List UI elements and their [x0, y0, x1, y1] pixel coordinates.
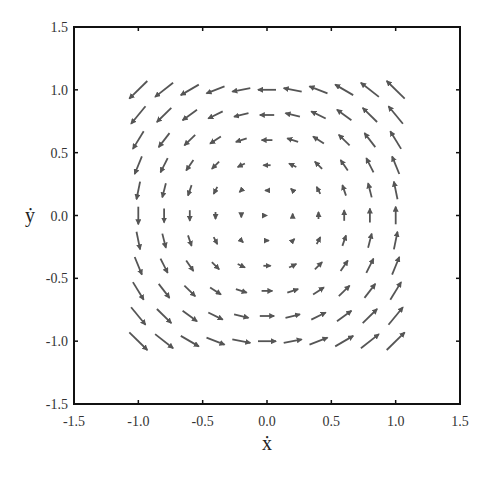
field-arrow [342, 235, 346, 246]
field-arrow [365, 284, 376, 298]
field-arrow [159, 284, 170, 298]
field-arrow [240, 239, 244, 243]
field-arrow [284, 339, 302, 343]
field-arrow [212, 162, 219, 169]
field-arrow [286, 113, 300, 117]
quiver-plot: -1.5-1.0-0.50.00.51.01.5 1.51.00.50.0-0.… [0, 0, 497, 482]
field-arrow [183, 110, 197, 121]
field-arrow [184, 135, 195, 146]
vector-field-arrows [129, 81, 404, 350]
field-arrow [135, 156, 142, 174]
field-arrow [208, 313, 222, 320]
y-axis-ticks: 1.51.00.50.0-0.5-1.0-1.5 [46, 20, 460, 412]
field-arrow [313, 287, 324, 294]
field-arrow [390, 131, 401, 149]
field-arrow [287, 289, 298, 293]
field-arrow [137, 182, 141, 200]
field-arrow [159, 133, 170, 147]
y-tick-label: 1.0 [51, 83, 69, 98]
field-arrow [234, 314, 248, 318]
field-arrow [232, 339, 250, 343]
field-arrow [162, 234, 166, 248]
field-arrow [394, 232, 398, 250]
x-tick-label: -0.5 [192, 414, 214, 429]
field-arrow [368, 183, 372, 197]
y-tick-label: 0.5 [51, 146, 69, 161]
field-arrow [339, 286, 350, 297]
field-arrow [361, 83, 379, 97]
field-arrow [337, 311, 351, 322]
field-arrow [184, 286, 195, 297]
field-arrow [207, 86, 225, 93]
field-arrow [133, 131, 144, 149]
field-arrow [238, 264, 245, 268]
field-arrow [155, 334, 173, 348]
field-arrow [236, 138, 247, 142]
field-arrow [133, 282, 144, 300]
field-arrow [183, 311, 197, 322]
field-arrow [317, 187, 321, 194]
field-arrow [135, 257, 142, 275]
field-arrow [335, 336, 353, 347]
field-arrow [238, 164, 245, 168]
field-arrow [161, 158, 168, 172]
field-arrow [387, 332, 405, 350]
field-arrow [181, 85, 199, 96]
field-arrow [289, 164, 296, 168]
field-arrow [390, 282, 401, 300]
field-arrow [387, 81, 405, 99]
y-tick-label: -1.0 [46, 334, 68, 349]
field-arrow [240, 189, 244, 193]
field-arrow [286, 314, 300, 318]
field-arrow [394, 182, 398, 200]
field-arrow [315, 162, 322, 169]
x-tick-label: 1.0 [387, 414, 405, 429]
x-tick-label: 0.5 [323, 414, 341, 429]
field-arrow [210, 137, 221, 144]
field-arrow [212, 262, 219, 269]
field-arrow [236, 289, 247, 293]
y-tick-label: 1.5 [51, 20, 69, 35]
plot-frame [74, 27, 460, 404]
field-arrow [232, 88, 250, 92]
field-arrow [186, 261, 193, 272]
field-arrow [291, 239, 295, 243]
field-arrow [392, 156, 399, 174]
x-axis-label: ẋ [262, 432, 272, 454]
field-arrow [341, 160, 348, 171]
field-arrow [161, 259, 168, 273]
field-arrow [315, 262, 322, 269]
field-arrow [131, 307, 145, 325]
field-arrow [186, 160, 193, 171]
field-arrow [188, 185, 192, 196]
y-tick-label: -1.5 [46, 397, 68, 412]
y-tick-label: 0.0 [51, 209, 69, 224]
field-arrow [363, 108, 377, 122]
field-arrow [291, 189, 295, 193]
field-arrow [389, 307, 403, 325]
field-arrow [335, 85, 353, 96]
field-arrow [366, 158, 373, 172]
field-arrow [129, 81, 147, 99]
field-arrow [234, 113, 248, 117]
field-arrow [311, 111, 325, 118]
field-arrow [368, 234, 372, 248]
x-tick-label: -1.5 [63, 414, 85, 429]
field-arrow [310, 338, 328, 345]
field-arrow [208, 111, 222, 118]
field-arrow [392, 257, 399, 275]
x-tick-label: -1.0 [127, 414, 149, 429]
field-arrow [287, 138, 298, 142]
field-arrow [313, 137, 324, 144]
field-arrow [341, 261, 348, 272]
field-arrow [210, 287, 221, 294]
field-arrow [365, 133, 376, 147]
x-tick-label: 1.5 [451, 414, 469, 429]
field-arrow [289, 264, 296, 268]
field-arrow [129, 332, 147, 350]
y-axis-label: ẏ [25, 204, 35, 227]
field-arrow [157, 309, 171, 323]
field-arrow [337, 110, 351, 121]
y-tick-label: -0.5 [46, 271, 68, 286]
field-arrow [214, 187, 218, 194]
